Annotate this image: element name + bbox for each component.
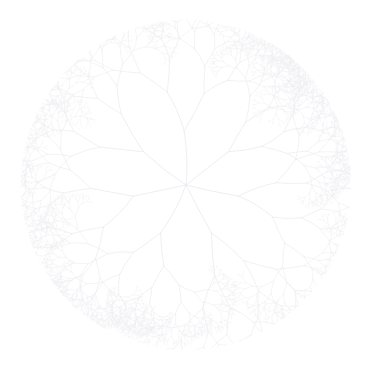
fractal-tree-drawing: A pale gray recursive binary branching t… (0, 0, 377, 369)
figure-canvas: A pale gray recursive binary branching t… (0, 0, 377, 369)
background (0, 0, 377, 369)
